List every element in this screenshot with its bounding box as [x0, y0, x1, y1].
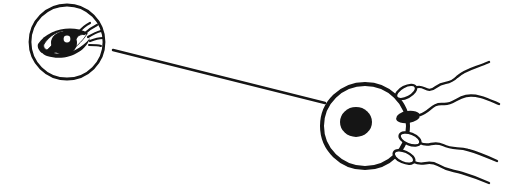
sight-line [113, 50, 325, 103]
eye-observer [30, 5, 104, 79]
eye-highlight-dot [64, 36, 71, 43]
sperm-lower-one-tail [420, 143, 497, 161]
sperm-lower-two-tail [414, 162, 489, 183]
sperm-lower-two-head [392, 148, 417, 167]
fertilization-diagram: Eye observing fertilization of an ovum b… [0, 0, 506, 185]
sperm-group [392, 62, 499, 183]
eye-iris [51, 32, 77, 55]
sperm-fertilizing-head [395, 109, 420, 124]
eyelash-3 [88, 31, 101, 37]
sperm-fertilizing-tail [420, 96, 499, 115]
eyelash-4 [90, 38, 103, 41]
sperm-fertilizing [395, 96, 499, 125]
eyelash-5 [89, 45, 101, 46]
sperm-upper-head [394, 82, 419, 102]
diagram-canvas [0, 0, 506, 185]
sperm-upper-tail [415, 62, 489, 90]
ovum-nucleus [340, 107, 372, 137]
